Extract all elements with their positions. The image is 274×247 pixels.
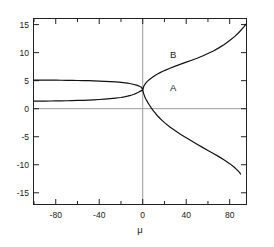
y-tick-label: 15 — [20, 20, 30, 30]
tick-labels-group: -80-4004080-15-10-5051015 — [17, 20, 235, 220]
x-tick-label: -80 — [50, 210, 63, 220]
data-curves-group — [34, 24, 246, 174]
figure-container: -80-4004080-15-10-5051015 BA μ — [0, 0, 274, 247]
y-tick-label: 10 — [20, 48, 30, 58]
curve-lower-branch-A — [34, 90, 241, 174]
x-tick-label: -40 — [93, 210, 106, 220]
x-tick-label: 0 — [140, 210, 145, 220]
y-tick-label: -10 — [17, 160, 30, 170]
plot-frame — [34, 19, 247, 205]
x-tick-label: 80 — [225, 210, 235, 220]
y-tick-label: -5 — [21, 132, 29, 142]
x-tick-label: 40 — [181, 210, 191, 220]
zero-reference-lines — [34, 19, 246, 204]
x-axis-label: μ — [137, 224, 142, 235]
curve-label-b: B — [170, 49, 176, 60]
y-tick-label: -15 — [17, 188, 30, 198]
curve-annotations-group: BA — [170, 49, 177, 93]
curve-label-a: A — [170, 82, 177, 93]
bifurcation-plot: -80-4004080-15-10-5051015 BA μ — [0, 0, 274, 247]
y-tick-label: 0 — [24, 104, 29, 114]
y-tick-label: 5 — [24, 76, 29, 86]
curve-upper-branch-B — [34, 24, 246, 90]
tick-marks-group — [34, 19, 246, 204]
